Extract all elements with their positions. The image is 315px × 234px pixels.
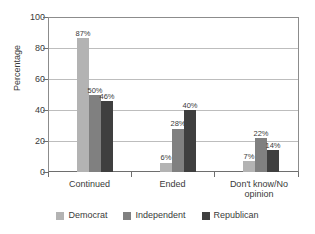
chart-legend: Democrat Independent Republican xyxy=(0,211,315,220)
bar-value-dontknow-independent: 22% xyxy=(253,130,268,138)
x-category-label-continued-line1: Continued xyxy=(48,179,131,189)
x-category-label-dontknow-line1: Don't know/No xyxy=(214,179,304,189)
legend-label-independent: Independent xyxy=(135,211,185,220)
x-category-label-continued: Continued xyxy=(48,179,131,189)
bar-ended-republican: 40% xyxy=(184,110,196,172)
y-tick-label-60: 60 xyxy=(21,75,45,84)
bar-value-continued-democrat: 87% xyxy=(75,30,90,38)
bar-dontknow-republican: 14% xyxy=(267,150,279,172)
legend-item-republican: Republican xyxy=(202,211,259,220)
bar-dontknow-democrat: 7% xyxy=(243,161,255,172)
bar-continued-republican: 46% xyxy=(101,101,113,172)
bar-value-ended-republican: 40% xyxy=(182,102,197,110)
legend-item-democrat: Democrat xyxy=(56,211,107,220)
x-category-label-ended-line1: Ended xyxy=(131,179,214,189)
x-category-label-ended: Ended xyxy=(131,179,214,189)
y-axis-title: Percentage xyxy=(12,18,22,118)
y-tick-label-80: 80 xyxy=(21,44,45,53)
bar-chart: Percentage 100 80 60 40 20 0 87% 50% 46%… xyxy=(0,0,315,234)
bar-ended-independent: 28% xyxy=(172,129,184,172)
legend-swatch-democrat xyxy=(56,212,64,220)
y-tick-label-40: 40 xyxy=(21,106,45,115)
bar-continued-independent: 50% xyxy=(89,95,101,172)
legend-label-republican: Republican xyxy=(214,211,259,220)
bar-continued-democrat: 87% xyxy=(77,38,89,172)
y-tick-label-100: 100 xyxy=(21,13,45,22)
bar-value-continued-republican: 46% xyxy=(99,93,114,101)
x-category-label-dontknow: Don't know/No opinion xyxy=(214,179,304,199)
bar-value-ended-democrat: 6% xyxy=(161,154,172,162)
bars-layer: 87% 50% 46% 6% 28% 40% 7% 22% 14% xyxy=(49,18,298,172)
x-category-label-dontknow-line2: opinion xyxy=(214,189,304,199)
bar-value-dontknow-republican: 14% xyxy=(265,142,280,150)
legend-swatch-independent xyxy=(123,212,131,220)
x-tick-mark-2 xyxy=(214,172,215,177)
y-tick-label-20: 20 xyxy=(21,137,45,146)
x-tick-mark-0 xyxy=(48,172,49,177)
x-tick-mark-1 xyxy=(131,172,132,177)
bar-value-dontknow-democrat: 7% xyxy=(244,153,255,161)
bar-ended-democrat: 6% xyxy=(160,163,172,172)
y-tick-label-0: 0 xyxy=(21,168,45,177)
legend-swatch-republican xyxy=(202,212,210,220)
x-tick-mark-3 xyxy=(298,172,299,177)
legend-label-democrat: Democrat xyxy=(68,211,107,220)
legend-item-independent: Independent xyxy=(123,211,185,220)
